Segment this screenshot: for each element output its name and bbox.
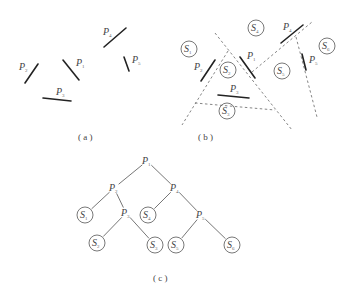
segment-label-p3: P3 [55,86,65,98]
tree-edge-p5-s6 [205,219,225,239]
region-label-s5: S5 [277,65,285,77]
segment-label-p1: P1 [246,50,256,62]
region-label-s1: S1 [184,43,192,55]
segment-p2 [25,64,38,83]
tree-node-s1: S1 [80,209,88,221]
segment-label-p5: P5 [131,54,141,66]
segment-label-p1: P1 [75,57,85,69]
region-label-s6: S6 [322,40,330,52]
tree-node-p4: P4 [169,182,179,194]
tree-edge-p4-p5 [179,192,197,210]
tree-node-p3: P3 [120,207,130,219]
segment-label-p4: P4 [102,26,112,38]
tree-edge-p2-p3 [117,193,124,207]
region-label-s4: S4 [251,22,259,34]
tree-node-s3: S3 [150,239,158,251]
tree-edge-p4-s4 [154,192,170,208]
tree-node-s6: S6 [227,239,235,251]
region-label-s3: S3 [222,105,230,117]
segment-p3 [43,98,71,101]
tree-node-s5: S5 [171,239,179,251]
segment-label-p2: P2 [193,61,203,73]
region-label-s2: S2 [223,64,231,76]
partition-line-4 [252,22,312,72]
bsp-diagram: P1P2P3P4P5( a ) P1P2P3P4P5S1S2S3S4S5S6( … [0,0,351,294]
segment-p2 [201,60,215,81]
segment-p5 [124,57,129,71]
caption-c: ( c ) [153,273,168,283]
caption-a: ( a ) [78,132,93,142]
partition-line-5 [296,37,317,117]
tree-node-p5: P5 [195,209,205,221]
tree-edge-p1-p2 [119,165,143,184]
tree-node-s2: S2 [92,237,100,249]
tree-edge-p3-s2 [103,217,122,236]
segment-label-p3: P3 [229,83,239,95]
segment-p3 [218,95,249,98]
tree-node-s4: S4 [143,209,151,221]
segment-label-p2: P2 [18,61,28,73]
panel-b-partitioned-space: P1P2P3P4P5S1S2S3S4S5S6( b ) [181,20,335,142]
segment-label-p5: P5 [308,54,318,66]
tree-edge-p3-s3 [130,217,149,238]
tree-edge-p1-p4 [151,165,170,184]
tree-node-p2: P2 [108,182,118,194]
segment-label-p4: P4 [282,21,292,33]
panel-c-bsp-tree: P1P2P4S1P3S4P5S2S3S5S6( c ) [77,155,240,283]
tree-edge-p2-s1 [92,192,110,209]
panel-a-line-segments: P1P2P3P4P5( a ) [18,26,141,142]
caption-b: ( b ) [198,132,213,142]
tree-node-p1: P1 [141,155,151,167]
tree-edge-p5-s5 [182,220,197,238]
